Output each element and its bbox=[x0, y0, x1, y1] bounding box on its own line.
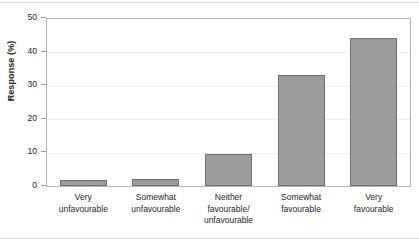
y-tick-label: 40 bbox=[7, 46, 37, 57]
bar[interactable] bbox=[205, 154, 252, 186]
y-tick-label: 50 bbox=[7, 12, 37, 23]
top-divider-rule bbox=[0, 2, 419, 3]
y-axis: 01020304050 bbox=[0, 18, 46, 187]
bar-slot bbox=[337, 19, 410, 186]
y-tick-label: 30 bbox=[7, 79, 37, 90]
bar-slot bbox=[120, 19, 193, 186]
y-tick-40: 40 bbox=[0, 46, 46, 57]
x-axis-label: Very unfavourable bbox=[47, 192, 120, 227]
y-tick-0: 0 bbox=[0, 180, 46, 191]
x-axis-label: Very favourable bbox=[337, 192, 410, 227]
bar-slot bbox=[265, 19, 338, 186]
y-tick-10: 10 bbox=[0, 146, 46, 157]
bar-chart-figure: Response (%) 01020304050 Very unfavourab… bbox=[0, 0, 419, 241]
bar-slot bbox=[192, 19, 265, 186]
bar-series bbox=[47, 19, 410, 186]
bottom-divider-rule bbox=[0, 238, 419, 239]
y-tick-label: 10 bbox=[7, 146, 37, 157]
bar[interactable] bbox=[132, 179, 179, 186]
x-axis-label: Somewhat favourable bbox=[265, 192, 338, 227]
y-tick-30: 30 bbox=[0, 79, 46, 90]
x-axis-label: Somewhat unfavourable bbox=[120, 192, 193, 227]
bar[interactable] bbox=[60, 180, 107, 186]
x-axis-label: Neither favourable/ unfavourable bbox=[192, 192, 265, 227]
y-tick-20: 20 bbox=[0, 113, 46, 124]
y-tick-50: 50 bbox=[0, 12, 46, 23]
x-axis-labels: Very unfavourableSomewhat unfavourableNe… bbox=[47, 192, 410, 227]
bar-slot bbox=[47, 19, 120, 186]
bar[interactable] bbox=[278, 75, 325, 186]
bar[interactable] bbox=[350, 38, 397, 186]
y-tick-label: 0 bbox=[7, 180, 37, 191]
y-tick-label: 20 bbox=[7, 113, 37, 124]
